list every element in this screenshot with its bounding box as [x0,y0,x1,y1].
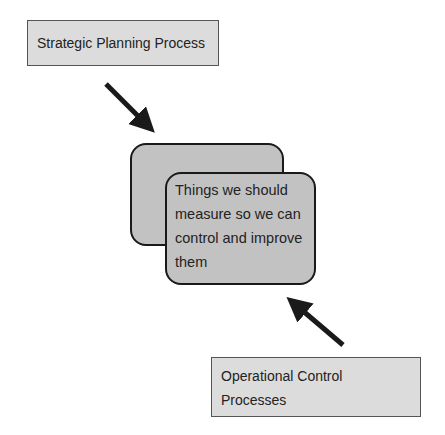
measure-card: Things we should measure so we can contr… [165,172,316,285]
operational-control-box: Operational Control Processes [211,357,421,417]
operational-control-line2: Processes [221,388,420,412]
arrow-operational-to-center [296,305,343,345]
operational-control-line1: Operational Control [221,364,420,388]
measure-card-text: Things we should measure so we can contr… [167,174,314,278]
arrow-strategic-to-center [106,84,146,124]
